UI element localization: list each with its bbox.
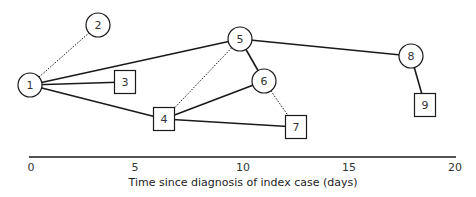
edge-5-8 xyxy=(240,39,411,56)
node-1: 1 xyxy=(18,73,42,97)
time-axis: 05101520 Time since diagnosis of index c… xyxy=(28,157,463,189)
tick-label-20: 20 xyxy=(448,161,462,174)
node-6: 6 xyxy=(252,69,276,93)
nodes-layer: 123456789 xyxy=(18,13,436,139)
node-label: 3 xyxy=(122,76,129,89)
node-label: 6 xyxy=(261,75,268,88)
edge-5-4 xyxy=(164,39,240,119)
edge-1-2 xyxy=(30,25,98,85)
node-2: 2 xyxy=(86,13,110,37)
edge-6-4 xyxy=(164,81,264,119)
edge-1-4 xyxy=(30,85,164,119)
axis-tick-labels: 05101520 xyxy=(28,161,463,174)
node-8: 8 xyxy=(399,44,423,68)
tick-label-5: 5 xyxy=(132,161,139,174)
axis-title: Time since diagnosis of index case (days… xyxy=(128,176,358,189)
tick-label-10: 10 xyxy=(236,161,250,174)
node-label: 4 xyxy=(161,113,168,126)
node-label: 2 xyxy=(95,19,102,32)
node-3: 3 xyxy=(115,71,136,94)
node-label: 7 xyxy=(293,121,300,134)
node-label: 1 xyxy=(27,79,34,92)
edge-4-7 xyxy=(164,119,296,127)
node-9: 9 xyxy=(415,94,436,117)
node-5: 5 xyxy=(228,27,252,51)
tick-label-0: 0 xyxy=(28,161,35,174)
node-label: 9 xyxy=(422,99,429,112)
node-label: 8 xyxy=(408,50,415,63)
node-label: 5 xyxy=(237,33,244,46)
transmission-diagram: 123456789 05101520 Time since diagnosis … xyxy=(0,0,476,197)
tick-label-15: 15 xyxy=(342,161,356,174)
node-7: 7 xyxy=(286,116,307,139)
node-4: 4 xyxy=(154,108,175,131)
